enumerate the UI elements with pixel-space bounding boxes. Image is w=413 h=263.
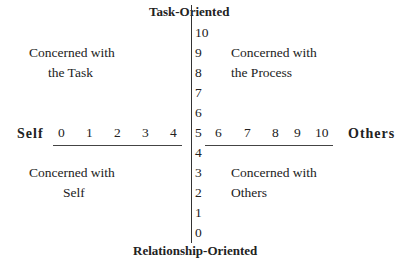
h-tick: 6 [215,125,222,141]
v-tick: 10 [195,25,209,41]
bottom-title: Relationship-Oriented [133,243,257,259]
top-title: Task-Oriented [149,4,229,20]
v-tick: 6 [195,105,202,121]
vertical-axis-line [191,5,192,243]
v-tick: 4 [195,145,202,161]
horizontal-axis-line-right [205,145,333,146]
v-tick: 9 [195,45,202,61]
right-axis-label: Others [348,126,395,142]
v-tick: 1 [195,205,202,221]
h-tick: 1 [86,125,93,141]
v-tick: 5 [195,125,202,141]
h-tick: 8 [272,125,279,141]
h-tick: 0 [58,125,65,141]
v-tick: 3 [195,165,202,181]
quadrant-top-right-line1: Concerned with [231,45,317,61]
quadrant-bottom-right-line2: Others [231,185,267,201]
quadrant-bottom-left-line2: Self [63,185,85,201]
left-axis-label: Self [17,126,44,142]
h-tick: 9 [294,125,301,141]
h-tick: 3 [142,125,149,141]
h-tick: 4 [170,125,177,141]
v-tick: 7 [195,85,202,101]
v-tick: 8 [195,65,202,81]
quadrant-top-left-line2: the Task [48,65,93,81]
v-tick: 0 [195,225,202,241]
horizontal-axis-line-left [53,145,182,146]
v-tick: 2 [195,185,202,201]
quadrant-bottom-right-line1: Concerned with [231,165,317,181]
quadrant-top-right-line2: the Process [231,65,292,81]
quadrant-top-left-line1: Concerned with [29,45,115,61]
h-tick: 7 [244,125,251,141]
quadrant-bottom-left-line1: Concerned with [29,165,115,181]
h-tick: 10 [315,125,329,141]
h-tick: 2 [114,125,121,141]
